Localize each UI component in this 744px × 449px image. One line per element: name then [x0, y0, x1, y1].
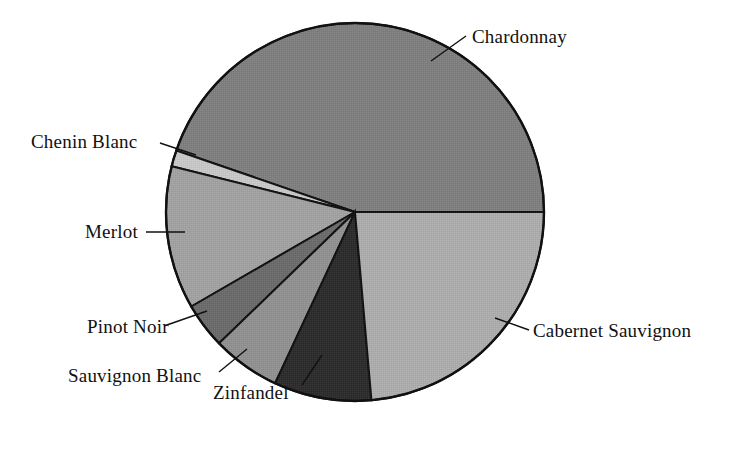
pie-label-pinot-noir: Pinot Noir: [87, 317, 169, 336]
pie-label-chardonnay: Chardonnay: [472, 27, 567, 46]
pie-label-sauvignon-blanc: Sauvignon Blanc: [68, 366, 201, 385]
pie-label-cabernet-sauvignon: Cabernet Sauvignon: [533, 321, 691, 340]
pie-label-zinfandel: Zinfandel: [213, 383, 289, 402]
pie-slice-texture-cabernet-sauvignon: [355, 212, 544, 400]
pie-slice-texture: [166, 23, 544, 401]
pie-chart: Chardonnay Cabernet Sauvignon Chenin Bla…: [0, 0, 744, 449]
pie-label-chenin-blanc: Chenin Blanc: [31, 132, 137, 151]
pie-label-merlot: Merlot: [85, 222, 138, 241]
